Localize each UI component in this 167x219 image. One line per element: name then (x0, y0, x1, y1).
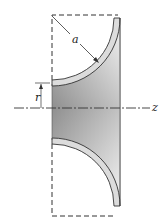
diagram: a r z (0, 0, 167, 219)
axis-label: z (151, 101, 158, 114)
shaded-region-top (52, 18, 119, 108)
r-arrowhead-icon (39, 84, 43, 89)
radius-label: a (72, 33, 79, 46)
inner-radius-label: r (35, 91, 41, 104)
shaded-region-bottom (52, 108, 119, 206)
